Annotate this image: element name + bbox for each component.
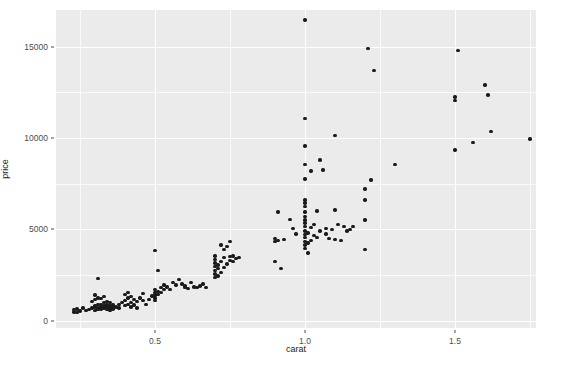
- y-tick-label: 0: [43, 316, 48, 326]
- y-tick-label: 15000: [24, 42, 48, 52]
- data-point: [228, 240, 231, 243]
- data-point: [186, 287, 189, 290]
- data-point: [144, 303, 147, 306]
- y-axis-title: price: [0, 10, 14, 328]
- data-point: [189, 281, 192, 284]
- gridline-minor-x: [380, 10, 381, 328]
- gridline-major-x: [155, 10, 156, 328]
- data-point: [309, 226, 312, 229]
- data-point: [306, 231, 309, 234]
- data-point: [294, 232, 297, 235]
- data-point: [303, 205, 306, 208]
- gridline-major-y: [56, 229, 536, 230]
- y-tick-mark: [51, 229, 54, 230]
- y-tick-mark: [51, 320, 54, 321]
- data-point: [96, 277, 99, 280]
- data-point: [216, 267, 219, 270]
- data-point: [303, 225, 306, 228]
- data-point: [366, 47, 369, 50]
- data-point: [303, 117, 306, 120]
- data-point: [156, 269, 159, 272]
- data-point: [453, 99, 456, 102]
- data-point: [303, 218, 306, 221]
- data-point: [204, 286, 207, 289]
- data-point: [273, 260, 276, 263]
- gridline-minor-y: [56, 92, 536, 93]
- data-point: [141, 299, 144, 302]
- data-point: [225, 262, 228, 265]
- data-point: [363, 218, 366, 221]
- data-point: [471, 141, 474, 144]
- data-point: [276, 210, 279, 213]
- data-point: [303, 18, 306, 21]
- y-tick-mark: [51, 46, 54, 47]
- data-point: [309, 239, 312, 242]
- gridline-major-y: [56, 47, 536, 48]
- data-point: [213, 258, 216, 261]
- data-point: [219, 243, 222, 246]
- data-point: [288, 218, 291, 221]
- data-point: [303, 198, 306, 201]
- y-tick-label: 5000: [29, 224, 48, 234]
- data-point: [324, 227, 327, 230]
- data-point: [291, 227, 294, 230]
- gridline-minor-x: [230, 10, 231, 328]
- data-point: [333, 238, 336, 241]
- data-point: [219, 271, 222, 274]
- data-point: [78, 309, 81, 312]
- data-point: [315, 236, 318, 239]
- data-point: [129, 295, 132, 298]
- gridline-minor-x: [80, 10, 81, 328]
- data-point: [312, 223, 315, 226]
- data-point: [327, 237, 330, 240]
- data-point: [276, 239, 279, 242]
- data-point: [318, 158, 321, 161]
- data-point: [351, 225, 354, 228]
- gridline-minor-y: [56, 184, 536, 185]
- data-point: [306, 251, 309, 254]
- data-point: [342, 225, 345, 228]
- data-point: [315, 209, 318, 212]
- data-point: [483, 83, 486, 86]
- data-point: [333, 134, 336, 137]
- data-point: [135, 306, 138, 309]
- data-point: [231, 260, 234, 263]
- data-point: [159, 291, 162, 294]
- data-point: [126, 291, 129, 294]
- data-point: [279, 267, 282, 270]
- scatter-plot-figure: the supple PDF code with conditional mas…: [0, 0, 563, 370]
- data-point: [333, 208, 336, 211]
- data-point: [318, 229, 321, 232]
- data-point: [93, 298, 96, 301]
- data-point: [309, 169, 312, 172]
- data-point: [282, 238, 285, 241]
- data-point: [174, 283, 177, 286]
- gridline-minor-y: [56, 275, 536, 276]
- y-tick-label: 10000: [24, 133, 48, 143]
- data-point: [222, 248, 225, 251]
- data-point: [369, 178, 372, 181]
- data-point: [102, 295, 105, 298]
- data-point: [153, 299, 156, 302]
- gridline-major-x: [305, 10, 306, 328]
- data-point: [486, 93, 489, 96]
- data-point: [177, 278, 180, 281]
- data-point: [348, 228, 351, 231]
- data-point: [303, 210, 306, 213]
- x-tick-mark: [305, 330, 306, 333]
- data-point: [303, 236, 306, 239]
- data-point: [363, 198, 366, 201]
- data-point: [372, 69, 375, 72]
- data-point: [489, 130, 492, 133]
- gridline-major-y: [56, 138, 536, 139]
- data-point: [135, 300, 138, 303]
- data-point: [453, 95, 456, 98]
- gridline-major-y: [56, 321, 536, 322]
- data-point: [216, 263, 219, 266]
- gridline-major-x: [455, 10, 456, 328]
- data-point: [75, 311, 78, 314]
- data-point: [117, 306, 120, 309]
- data-point: [303, 177, 306, 180]
- data-point: [363, 187, 366, 190]
- data-point: [303, 163, 306, 166]
